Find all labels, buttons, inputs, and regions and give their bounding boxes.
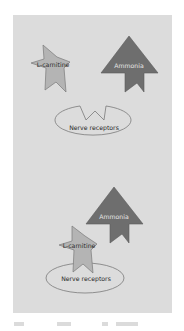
- ammonia-label: Ammonia: [114, 62, 144, 69]
- bottom-ammonia: Ammonia: [86, 187, 143, 243]
- top-ammonia: Ammonia: [101, 36, 158, 92]
- lcarnitine-shape: [31, 45, 70, 92]
- receptor-label: Nerve receptors: [69, 124, 119, 132]
- bottom-nerve-receptor: Nerve receptors: [46, 263, 124, 293]
- ammonia-label: Ammonia: [99, 213, 129, 220]
- top-scene: Nerve receptors L-carnitine Ammonia: [31, 36, 158, 135]
- top-nerve-receptor: Nerve receptors: [55, 106, 131, 135]
- top-lcarnitine: L-carnitine: [31, 45, 70, 92]
- lcarnitine-label: L-carnitine: [63, 242, 96, 249]
- bottom-scene: Nerve receptors Ammonia L-carnitine: [46, 187, 143, 293]
- lcarnitine-label: L-carnitine: [37, 61, 70, 68]
- diagram-canvas: Nerve receptors L-carnitine Ammonia Nerv…: [0, 0, 184, 331]
- receptor-label: Nerve receptors: [61, 275, 111, 283]
- cutoff-caption-text: [12, 322, 172, 328]
